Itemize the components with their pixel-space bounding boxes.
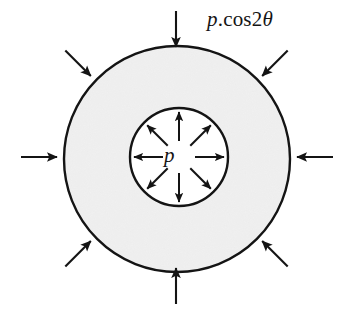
external-pressure-symbol: p (207, 7, 218, 31)
external-pressure-cos: .cos2 (218, 7, 263, 31)
external-pressure-label: p.cos2θ (207, 9, 273, 30)
pressure-vessel-diagram: p.cos2θ p (0, 0, 350, 316)
diagram-canvas (0, 0, 350, 316)
internal-pressure-label: p (164, 145, 175, 166)
external-pressure-theta: θ (262, 7, 273, 31)
